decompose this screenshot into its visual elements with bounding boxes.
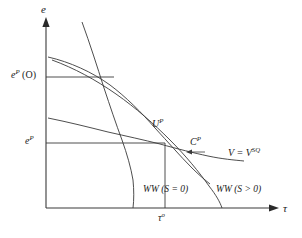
label-cp-sup: P [197,135,201,142]
curve-contract-cp [48,57,210,184]
y-axis-arrowhead [42,17,49,27]
tick-label-ep-o: eP (O) [11,70,36,80]
curve-ww-s-equals-0 [82,22,134,208]
tick-label-tau-o: τo [158,213,165,223]
label-v-vsq-sup: SQ [252,146,260,153]
diagram-canvas [0,0,302,238]
x-axis-label: τ [283,203,287,214]
label-curve-ww-s-greater-0: WW (S > 0) [216,185,261,195]
label-curve-ww-s-equals-0: WW (S = 0) [143,185,188,195]
economics-diagram-figure: e τ eP (O) eP τo UP CP V = VSQ WW (S = 0… [0,0,302,238]
tick-label-ep-o-suffix: (O) [20,69,36,80]
label-cp-base: C [190,136,197,147]
curve-indifference-v-vsq [48,118,244,161]
tick-label-ep-sup: P [29,134,33,141]
label-curve-cp: CP [190,137,201,147]
label-v-vsq-prefix: V = V [228,147,252,158]
tick-label-ep: eP [25,136,34,146]
x-axis-arrowhead [269,204,279,211]
label-up-sup: P [159,117,163,124]
label-curve-v-vsq: V = VSQ [228,148,260,158]
cp-pointer-arrow [186,149,205,154]
label-equilibrium-point-up: UP [152,119,163,129]
tick-label-tau-o-sup: o [162,211,165,218]
y-axis-label: e [41,4,46,15]
curves-group [48,22,244,208]
